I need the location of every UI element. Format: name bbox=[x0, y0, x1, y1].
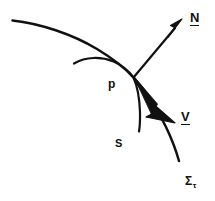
label-normal-vector: N bbox=[190, 11, 199, 26]
s-curve bbox=[74, 58, 140, 132]
label-velocity-vector: V bbox=[181, 110, 190, 125]
sigma-subscript-glyph: τ bbox=[193, 181, 197, 190]
sigma-tau-curve bbox=[13, 21, 180, 162]
label-hypersurface-sigma-tau: Στ bbox=[185, 175, 196, 190]
diagram-canvas bbox=[0, 0, 215, 201]
label-surface-s: S bbox=[115, 138, 122, 149]
geometry-figure: N V p S Στ bbox=[0, 0, 215, 201]
sigma-glyph: Σ bbox=[185, 174, 192, 188]
label-point-p: p bbox=[108, 78, 115, 90]
normal-vector-arrowhead bbox=[168, 19, 182, 38]
